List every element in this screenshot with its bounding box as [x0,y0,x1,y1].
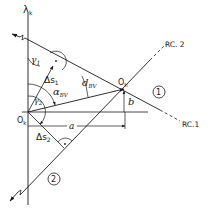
rc2-label: RC. 2 [165,40,185,49]
delta-s2-label: Δs2 [36,132,51,143]
line-1-marker-label: 1 [156,88,161,97]
b-label: b [128,96,134,107]
alpha-bv-label: αBV [53,86,69,98]
dbv-line [28,89,124,112]
line-2 [10,44,166,201]
a-label: a [69,121,74,131]
line-2-marker-label: 2 [51,175,56,184]
delta-s1-label: Δs1 [44,75,59,86]
line-1 [12,34,180,121]
geometry-diagram: λk γ1 Δs1 αBV γ2 dBV Ok Oh a b Δs2 1 2 R… [0,0,211,211]
dbv-label: dBV [82,77,97,89]
origin-k-label: Ok [17,116,27,126]
rc1-label: RC.1 [182,120,199,129]
gamma2-label: γ2 [34,96,43,106]
gamma1-label: γ1 [31,55,40,66]
origin-h-label: Oh [118,78,128,88]
axis-label: λk [23,4,33,16]
